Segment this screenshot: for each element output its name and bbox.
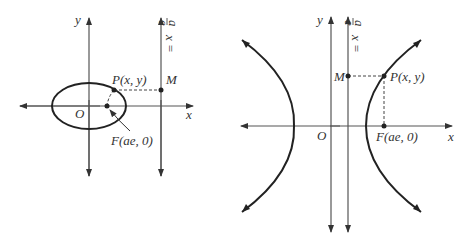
- hyperbola-right-upper-arrow: [413, 40, 421, 48]
- ellipse-point-m: [159, 88, 164, 93]
- hyperbola-focus-label: F(ae, 0): [375, 129, 418, 144]
- hyperbola-p-label: P(x, y): [389, 69, 425, 84]
- ellipse-focus-label: F(ae, 0): [110, 133, 153, 148]
- ellipse-point-p: [112, 88, 117, 93]
- hyperbola-left-lower-arrow: [242, 204, 250, 212]
- hyperbola-directrix-label: x = a e: [342, 18, 367, 53]
- ellipse-pf-segment: [107, 90, 114, 106]
- ellipse-focus-pointer: [110, 110, 130, 131]
- svg-text:e: e: [342, 20, 357, 26]
- hyperbola-left-upper-arrow: [242, 40, 250, 48]
- hyperbola-point-m: [346, 74, 351, 79]
- svg-text:x =: x =: [163, 34, 178, 53]
- hyperbola-diagram: y x O P(x, y) M F(ae, 0) x = a e: [241, 12, 454, 232]
- hyperbola-x-label: x: [447, 129, 454, 144]
- ellipse-x-label: x: [185, 107, 192, 122]
- ellipse-diagram: y x O P(x, y) M F(ae, 0) x = a e: [20, 12, 193, 176]
- hyperbola-origin-label: O: [317, 128, 327, 143]
- svg-text:e: e: [156, 20, 171, 26]
- ellipse-p-label: P(x, y): [111, 72, 147, 87]
- ellipse-origin-label: O: [75, 106, 85, 121]
- hyperbola-point-f: [382, 124, 387, 129]
- hyperbola-right-lower-arrow: [413, 204, 421, 212]
- conic-sections-figure: y x O P(x, y) M F(ae, 0) x = a e: [0, 0, 473, 246]
- ellipse-directrix-label: x = a e: [156, 18, 181, 53]
- ellipse-point-f: [105, 104, 110, 109]
- hyperbola-m-label: M: [333, 69, 346, 84]
- ellipse-m-label: M: [165, 72, 178, 87]
- hyperbola-point-p: [382, 74, 387, 79]
- svg-text:x =: x =: [349, 34, 364, 53]
- hyperbola-y-label: y: [315, 12, 323, 27]
- ellipse-y-label: y: [73, 12, 81, 27]
